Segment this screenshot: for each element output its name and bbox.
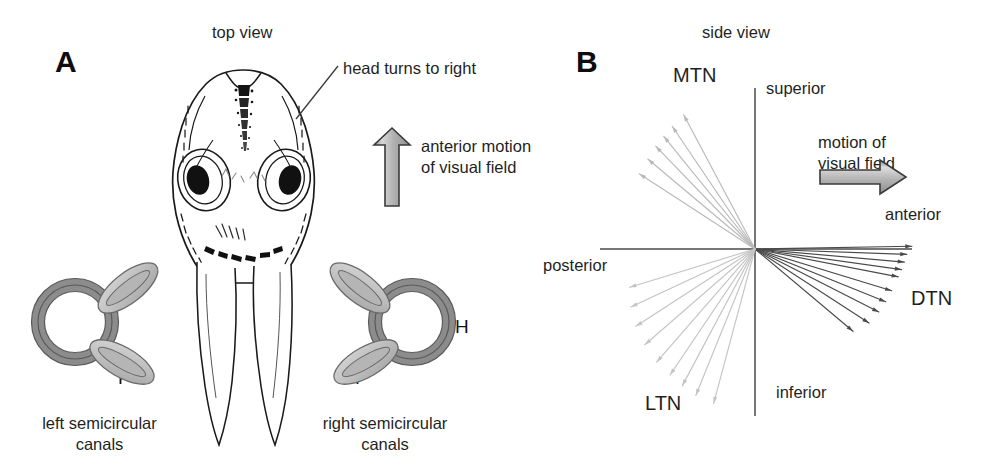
vector-arrowhead [631, 302, 638, 307]
vector-arrowhead [905, 244, 912, 248]
left-canals-caption-line2: canals [12, 434, 187, 455]
vector-ray [670, 249, 755, 375]
vector-arrowhead [664, 136, 670, 142]
vector-arrowhead [895, 267, 902, 271]
vector-arrowhead [670, 368, 675, 375]
cluster-label-mtn: MTN [673, 64, 716, 87]
vector-ray [636, 249, 755, 326]
vector-ray [755, 249, 904, 262]
vector-arrowhead [630, 283, 637, 287]
left-canal-anterior-label: A [117, 271, 130, 293]
vector-arrowhead [872, 307, 879, 312]
anterior-motion-arrow-icon [374, 128, 410, 206]
vector-arrowhead [645, 339, 651, 345]
figure-canvas: A top view head turns to right anterior … [0, 0, 983, 469]
vector-ray [648, 159, 755, 249]
left-canal-horizontal-label: H [33, 316, 47, 338]
vector-arrowhead [636, 321, 643, 326]
vector-ray [684, 115, 755, 249]
axis-label-inferior: inferior [776, 382, 826, 403]
axis-label-anterior: anterior [885, 204, 941, 225]
head-turns-callout-label: head turns to right [343, 58, 476, 79]
vector-arrowhead [639, 174, 646, 179]
panel-a-letter: A [55, 45, 77, 79]
vector-group-ltn [630, 249, 755, 404]
head-turns-leader-line [296, 66, 338, 119]
left-canal-posterior-label: P [118, 367, 131, 389]
vector-arrowhead [713, 397, 717, 404]
vector-ray [755, 249, 892, 291]
anterior-motion-label-line1: anterior motion [421, 136, 531, 157]
cluster-label-dtn: DTN [911, 287, 952, 310]
axis-label-posterior: posterior [543, 255, 607, 276]
vector-ray [664, 136, 755, 249]
right-semicircular-canals-diagram [322, 254, 455, 393]
vector-arrowhead [648, 159, 654, 165]
vector-ray [631, 249, 755, 307]
vector-ray [755, 249, 886, 302]
left-canals-caption-line1: left semicircular [12, 413, 187, 434]
vector-ray [755, 246, 912, 249]
anterior-motion-label-line2: of visual field [421, 157, 516, 178]
right-canal-posterior-label: P [355, 367, 368, 389]
figure-graphics [0, 0, 983, 469]
vector-arrowhead [900, 252, 907, 256]
vector-arrowhead [672, 126, 677, 133]
vector-ray [755, 249, 869, 323]
axis-label-superior: superior [766, 78, 826, 99]
vector-arrowhead [682, 379, 687, 386]
vector-ray [630, 249, 755, 287]
vector-arrowhead [696, 389, 700, 396]
vector-arrowhead [684, 115, 689, 122]
vector-ray [714, 249, 755, 404]
vector-arrowhead [657, 356, 663, 362]
vector-arrowhead [898, 259, 905, 263]
vector-group-dtn [755, 244, 912, 331]
vector-ray [682, 249, 755, 386]
vector-arrowhead [879, 297, 886, 301]
vector-ray [755, 249, 879, 312]
vector-ray [656, 146, 755, 249]
vector-ray [696, 249, 755, 395]
vector-arrowhead [862, 318, 869, 323]
vector-group-mtn [639, 115, 755, 249]
vector-ray [657, 249, 755, 362]
vector-ray [645, 249, 755, 345]
right-canal-anterior-label: A [356, 271, 369, 293]
vector-ray [755, 249, 898, 277]
vector-arrowhead [891, 274, 898, 278]
vector-ray [755, 249, 853, 331]
vector-arrowhead [847, 325, 853, 331]
vector-ray [639, 174, 755, 249]
vector-ray [755, 249, 902, 270]
vector-arrowhead [656, 146, 662, 152]
left-semicircular-canals-diagram [32, 254, 166, 393]
panel-b-view-label: side view [702, 22, 770, 43]
vector-ray [755, 249, 907, 254]
motion-of-visual-field-label-line1: motion of [818, 132, 886, 153]
right-canal-horizontal-label: H [455, 316, 469, 338]
panel-b-letter: B [576, 45, 598, 79]
fish-head-drawing [171, 70, 316, 445]
vector-ray [672, 126, 755, 249]
right-canals-caption-line2: canals [290, 434, 480, 455]
cluster-label-ltn: LTN [645, 392, 681, 415]
right-canals-caption-line1: right semicircular [290, 413, 480, 434]
vector-arrowhead [885, 287, 892, 291]
motion-of-visual-field-label-line2: visual field [818, 153, 895, 174]
panel-a-view-label: top view [212, 22, 273, 43]
